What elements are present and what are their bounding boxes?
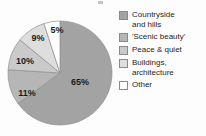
legend-item[interactable]: Countryside and hills bbox=[119, 10, 206, 29]
legend-item[interactable]: Other bbox=[119, 80, 206, 90]
pie-slice-value-label: 65% bbox=[71, 77, 89, 87]
legend-item[interactable]: 'Scenic beauty' bbox=[119, 32, 206, 42]
pie-slice-value-label: 9% bbox=[31, 33, 44, 43]
legend-item-label: Other bbox=[132, 80, 152, 90]
legend-item-label: Peace & quiet bbox=[132, 45, 182, 55]
legend-item-label: Buildings, architecture bbox=[132, 58, 174, 77]
pie-slice-value-label: 11% bbox=[18, 88, 36, 98]
legend-swatch-peace-quiet bbox=[119, 46, 128, 55]
legend-item[interactable]: Buildings, architecture bbox=[119, 58, 206, 77]
legend-swatch-countryside bbox=[119, 11, 128, 20]
pie-slice-group bbox=[8, 21, 112, 125]
legend-item[interactable]: Peace & quiet bbox=[119, 45, 206, 55]
legend-item-label: Countryside and hills bbox=[132, 10, 175, 29]
pie-chart-svg: 65%11%10%9%5% bbox=[0, 0, 120, 136]
pie-slice-value-label: 10% bbox=[16, 56, 34, 66]
chart-legend: Countryside and hills'Scenic beauty'Peac… bbox=[119, 10, 206, 120]
legend-swatch-scenic-beauty bbox=[119, 33, 128, 42]
legend-swatch-other bbox=[119, 81, 128, 90]
legend-swatch-buildings bbox=[119, 59, 128, 68]
pie-chart-figure: 65%11%10%9%5% Countryside and hills'Scen… bbox=[0, 0, 206, 136]
legend-item-label: 'Scenic beauty' bbox=[132, 32, 185, 42]
pie-slice-value-label: 5% bbox=[50, 25, 63, 35]
pie-chart-plot-area: 65%11%10%9%5% bbox=[0, 0, 120, 136]
